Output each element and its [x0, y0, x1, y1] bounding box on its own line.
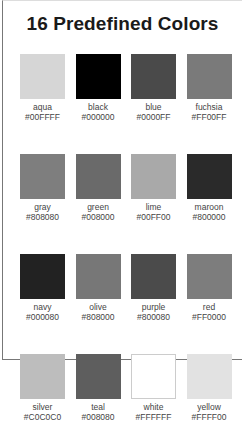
color-hex: #000080: [26, 312, 59, 322]
color-hex: #0000FF: [136, 112, 170, 122]
color-hex: #00FFFF: [25, 112, 60, 122]
color-item-purple: purple#800080: [131, 254, 176, 322]
color-item-maroon: maroon#800000: [187, 154, 232, 222]
color-item-fuchsia: fuchsia#FF00FF: [187, 54, 232, 122]
color-name: maroon: [195, 203, 224, 212]
color-item-blue: blue#0000FF: [131, 54, 176, 122]
color-item-white: white#FFFFFF: [131, 354, 176, 422]
color-swatch: [187, 54, 232, 99]
color-item-lime: lime#00FF00: [131, 154, 176, 222]
color-grid: aqua#00FFFFblack#000000blue#0000FFfuchsi…: [20, 54, 232, 422]
color-name: green: [87, 203, 109, 212]
color-swatch: [187, 154, 232, 199]
color-swatch: [187, 254, 232, 299]
color-name: olive: [89, 303, 106, 312]
color-hex: #008080: [81, 412, 114, 422]
color-name: lime: [146, 203, 162, 212]
color-name: purple: [142, 303, 166, 312]
color-name: white: [144, 403, 164, 412]
color-name: gray: [34, 203, 51, 212]
color-swatch: [76, 154, 121, 199]
color-swatch: [131, 154, 176, 199]
color-item-black: black#000000: [76, 54, 121, 122]
color-hex: #000000: [81, 112, 114, 122]
color-swatch: [20, 354, 65, 399]
color-item-red: red#FF0000: [187, 254, 232, 322]
color-hex: #800080: [137, 312, 170, 322]
color-hex: #FF00FF: [192, 112, 227, 122]
color-name: fuchsia: [196, 103, 223, 112]
color-swatch: [76, 54, 121, 99]
color-item-green: green#008000: [76, 154, 121, 222]
color-swatch: [20, 54, 65, 99]
color-hex: #008000: [81, 212, 114, 222]
color-swatch: [20, 154, 65, 199]
color-name: navy: [34, 303, 52, 312]
color-item-olive: olive#808000: [76, 254, 121, 322]
color-name: blue: [145, 103, 161, 112]
color-swatch: [131, 54, 176, 99]
color-item-teal: teal#008080: [76, 354, 121, 422]
color-item-navy: navy#000080: [20, 254, 65, 322]
color-swatch: [131, 254, 176, 299]
color-swatch: [131, 354, 176, 399]
color-name: silver: [33, 403, 53, 412]
color-item-gray: gray#808080: [20, 154, 65, 222]
color-swatch: [20, 254, 65, 299]
color-hex: #FFFF00: [192, 412, 227, 422]
color-hex: #808000: [81, 312, 114, 322]
color-hex: #FFFFFF: [136, 412, 172, 422]
page-title: 16 Predefined Colors: [3, 13, 242, 35]
color-item-silver: silver#C0C0C0: [20, 354, 65, 422]
color-hex: #800000: [192, 212, 225, 222]
color-item-yellow: yellow#FFFF00: [187, 354, 232, 422]
color-swatch: [187, 354, 232, 399]
color-hex: #00FF00: [136, 212, 170, 222]
color-item-aqua: aqua#00FFFF: [20, 54, 65, 122]
color-hex: #808080: [26, 212, 59, 222]
color-swatch: [76, 354, 121, 399]
color-name: aqua: [33, 103, 52, 112]
color-name: teal: [91, 403, 105, 412]
color-chart-card: 16 Predefined Colors aqua#00FFFFblack#00…: [2, 0, 242, 360]
color-hex: #C0C0C0: [24, 412, 61, 422]
color-swatch: [76, 254, 121, 299]
color-name: red: [203, 303, 215, 312]
color-name: yellow: [197, 403, 221, 412]
color-name: black: [88, 103, 108, 112]
color-hex: #FF0000: [192, 312, 226, 322]
